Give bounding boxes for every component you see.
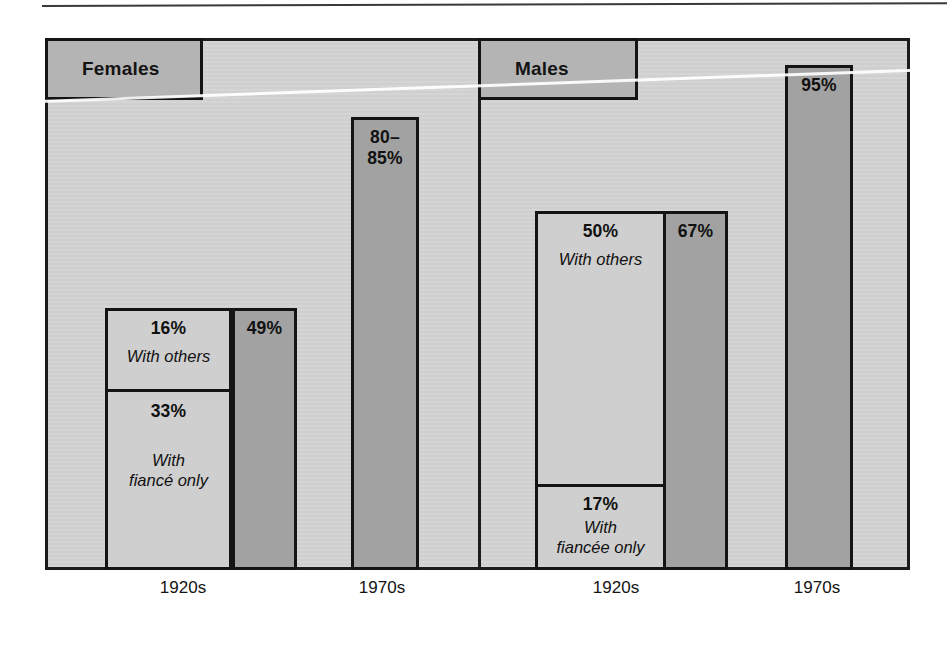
bar-label-wrap-80-85: 80– 85%	[351, 117, 419, 168]
segment-note-with-fiance-only: With fiancé only	[129, 450, 208, 491]
axis-label-females-1970s: 1970s	[322, 578, 442, 598]
bar-segment-males-with-fiancee-only: 17% With fiancée only	[535, 487, 666, 570]
segment-value-16: 16%	[151, 318, 187, 339]
segment-value-33: 33%	[151, 401, 187, 422]
bar-females-1920s-stacked: 16% With others 33% With fiancé only	[105, 308, 232, 570]
segment-note-with-others-males: With others	[559, 249, 642, 270]
axis-label-females-1920s: 1920s	[123, 578, 243, 598]
panel-header-females: Females	[45, 38, 203, 100]
segment-note-with-others: With others	[127, 346, 210, 367]
panel-title-males: Males	[481, 58, 569, 80]
axis-label-males-1920s: 1920s	[556, 578, 676, 598]
bar-females-1920s-total: 49%	[232, 308, 297, 570]
bar-label-wrap-95: 95%	[785, 65, 853, 96]
bar-total-label-wrap-49: 49%	[232, 308, 297, 339]
panel-divider	[478, 41, 481, 567]
segment-value-17: 17%	[583, 494, 619, 515]
panel-title-females: Females	[48, 58, 159, 80]
axis-label-males-1970s: 1970s	[757, 578, 877, 598]
panel-header-males: Males	[478, 38, 638, 100]
bar-segment-females-with-fiance-only: 33% With fiancé only	[105, 392, 232, 570]
bar-value-67: 67%	[678, 221, 714, 242]
page-rule	[42, 2, 947, 7]
bar-females-1970s: 80– 85%	[351, 117, 419, 570]
bar-segment-males-with-others: 50% With others	[535, 211, 666, 487]
bar-value-95: 95%	[801, 75, 837, 96]
bar-value-49: 49%	[247, 318, 283, 339]
bar-males-1920s-stacked: 50% With others 17% With fiancée only	[535, 211, 666, 570]
figure-root: Females 16% With others 33% With fiancé …	[0, 0, 950, 653]
bar-total-label-wrap-67: 67%	[663, 211, 728, 242]
bar-segment-females-with-others: 16% With others	[105, 308, 232, 392]
chart-plot-area: Females 16% With others 33% With fiancé …	[45, 38, 910, 570]
segment-note-with-fiancee-only: With fiancée only	[556, 517, 644, 558]
segment-value-50: 50%	[583, 221, 619, 242]
bar-males-1970s: 95%	[785, 65, 853, 570]
bar-value-80-85: 80– 85%	[367, 127, 403, 168]
bar-males-1920s-total: 67%	[663, 211, 728, 570]
